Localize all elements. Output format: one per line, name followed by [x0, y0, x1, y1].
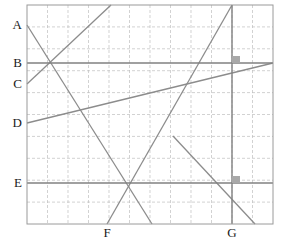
y-axis-label-d: D	[4, 116, 22, 129]
x-axis-label-g: G	[223, 226, 241, 239]
y-axis-label-e: E	[4, 176, 22, 189]
y-axis-label-a: A	[4, 18, 22, 31]
line-graph-figure: ABCDE FG	[0, 0, 281, 244]
y-axis-label-b: B	[4, 56, 22, 69]
marker-upper	[232, 56, 240, 63]
x-axis-label-f: F	[98, 226, 116, 239]
y-axis-label-c: C	[4, 77, 22, 90]
marker-lower	[232, 176, 240, 183]
plot-canvas	[0, 0, 281, 244]
